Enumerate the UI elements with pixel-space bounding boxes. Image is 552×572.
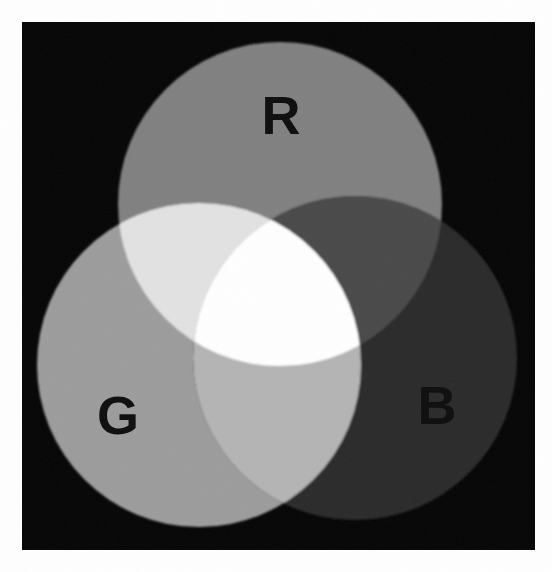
venn-label-red: R: [262, 85, 301, 145]
venn-label-green: G: [97, 385, 139, 445]
venn-label-blue: B: [418, 375, 457, 435]
figure-root: R G B: [0, 0, 552, 572]
venn-diagram-canvas: R G B: [0, 0, 552, 572]
